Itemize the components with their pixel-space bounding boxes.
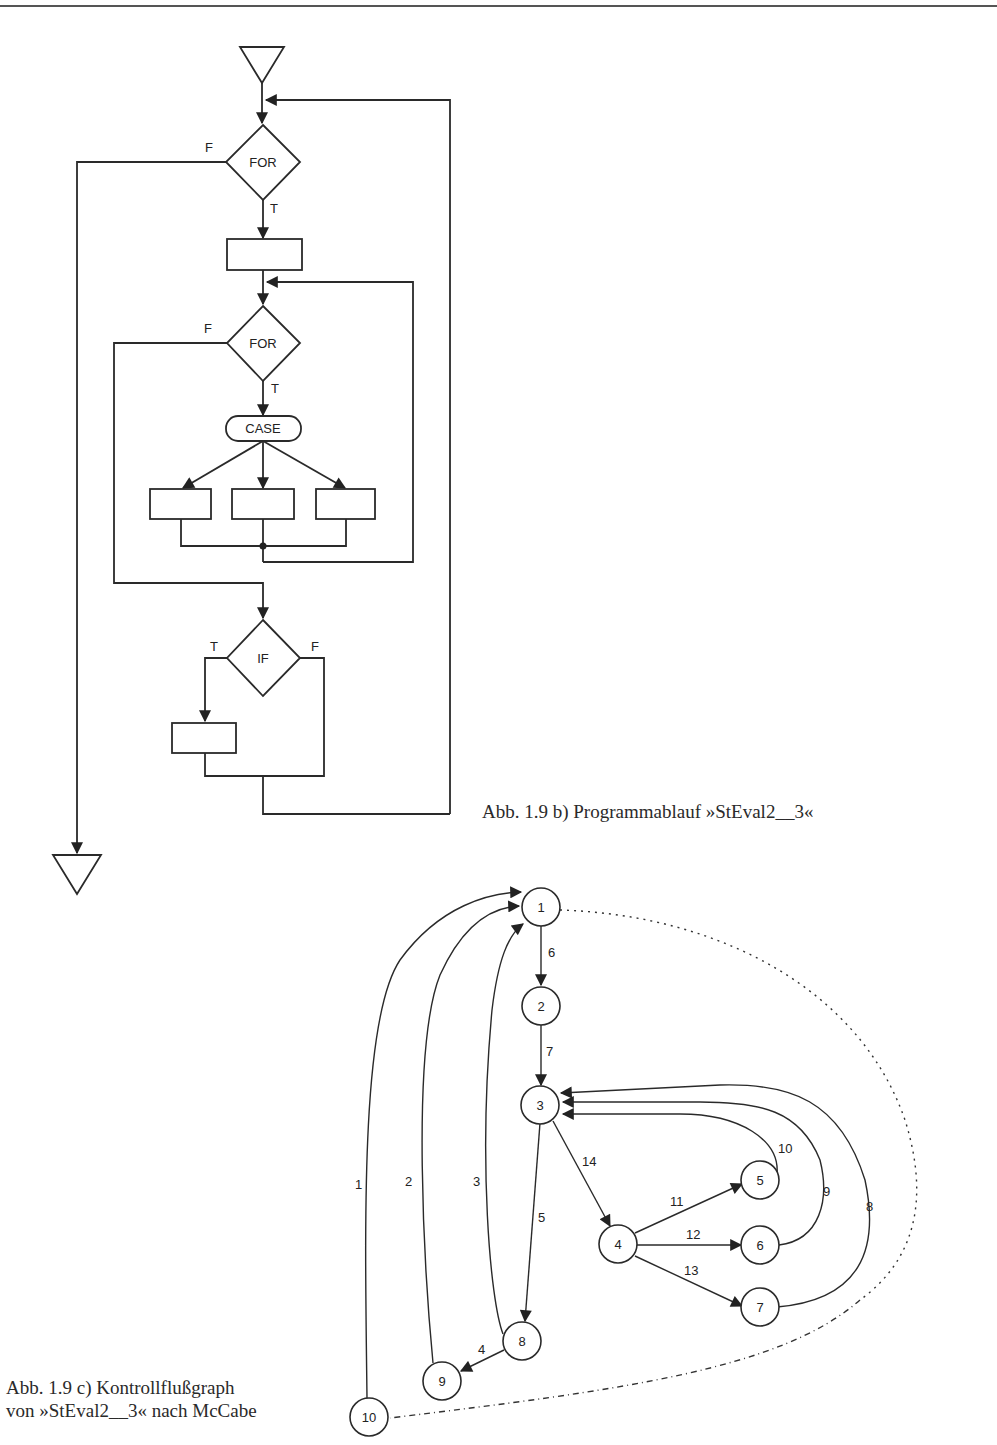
graph-node-10: 10 [350,1398,388,1436]
merge-point [260,543,267,550]
true-label: T [271,381,279,396]
svg-text:6: 6 [756,1238,763,1253]
edge-labels: 1 2 3 4 5 6 7 8 9 10 11 12 13 14 [355,945,873,1357]
true-label: T [270,201,278,216]
edge-label-1: 1 [355,1177,362,1192]
decision-for-outer: FOR F T [205,125,300,216]
start-triangle-icon [240,47,284,83]
graph-node-2: 2 [522,987,560,1025]
case-label: CASE [245,421,281,436]
if-true-box [172,723,236,753]
decision-label: FOR [249,336,276,351]
svg-text:9: 9 [438,1374,445,1389]
svg-text:8: 8 [518,1334,525,1349]
program-flowchart: FOR F T FOR F T CASE [53,47,450,894]
svg-text:4: 4 [614,1237,621,1252]
edge-label-3: 3 [473,1174,480,1189]
end-triangle-icon [53,855,101,894]
edge-label-5: 5 [538,1210,545,1225]
false-label: F [204,321,212,336]
process-box [227,239,302,270]
graph-node-6: 6 [741,1226,779,1264]
decision-label: FOR [249,155,276,170]
case-node: CASE [226,416,301,441]
graph-node-9: 9 [423,1362,461,1400]
edge-label-10: 10 [778,1141,792,1156]
edge-label-4: 4 [478,1342,485,1357]
edge-label-12: 12 [686,1227,700,1242]
case-branch-box-1 [150,489,211,519]
caption-program-flow: Abb. 1.9 b) Programmablauf »StEval2__3« [482,801,813,823]
caption-graph-line2: von »StEval2__3« nach McCabe [6,1400,257,1422]
edge-label-9: 9 [823,1184,830,1199]
true-label: T [210,639,218,654]
graph-node-8: 8 [503,1322,541,1360]
svg-text:1: 1 [537,900,544,915]
decision-for-inner: FOR F T [204,306,300,396]
svg-text:2: 2 [537,999,544,1014]
false-label: F [311,639,319,654]
graph-node-5: 5 [741,1161,779,1199]
svg-text:10: 10 [362,1410,376,1425]
graph-node-4: 4 [599,1225,637,1263]
decision-label: IF [257,651,269,666]
edge-label-8: 8 [866,1199,873,1214]
false-label: F [205,140,213,155]
graph-node-7: 7 [741,1288,779,1326]
case-branch-box-3 [316,489,375,519]
caption-graph-line1: Abb. 1.9 c) Kontrollflußgraph [6,1377,234,1399]
svg-text:3: 3 [536,1098,543,1113]
edge-label-11: 11 [670,1194,684,1209]
graph-node-3: 3 [521,1086,559,1124]
control-flow-graph: 1 2 3 4 5 6 7 8 9 10 1 2 3 4 5 6 7 8 9 1… [350,888,917,1436]
edge-label-13: 13 [684,1263,698,1278]
case-branch-box-2 [232,489,294,519]
svg-text:5: 5 [756,1173,763,1188]
svg-text:7: 7 [756,1300,763,1315]
edge-label-14: 14 [582,1154,596,1169]
graph-node-1: 1 [522,888,560,926]
edge-label-2: 2 [405,1174,412,1189]
edge-label-6: 6 [548,945,555,960]
edge-label-7: 7 [546,1044,553,1059]
